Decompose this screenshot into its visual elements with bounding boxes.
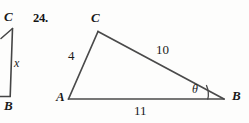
vertex-label-a: A xyxy=(56,90,65,103)
main-triangle-outline xyxy=(69,32,225,100)
angle-mark-theta xyxy=(207,86,209,100)
side-length-cb: 10 xyxy=(156,43,169,56)
vertex-label-c: C xyxy=(91,11,100,24)
problem-number: 24. xyxy=(33,12,48,25)
partial-vertex-label-b: B xyxy=(4,99,13,112)
partial-vertex-label-c: C xyxy=(4,10,13,23)
side-length-ac: 4 xyxy=(68,49,75,62)
partial-side-label-x: x xyxy=(14,57,19,69)
angle-label-theta: θ xyxy=(192,83,198,95)
triangle-side-ac xyxy=(69,32,99,100)
side-length-ab: 11 xyxy=(134,104,147,117)
partial-triangle-left xyxy=(0,29,13,97)
figure-page: 24. C x B C A B 4 10 11 θ xyxy=(0,0,249,123)
vertex-label-b: B xyxy=(232,89,241,102)
